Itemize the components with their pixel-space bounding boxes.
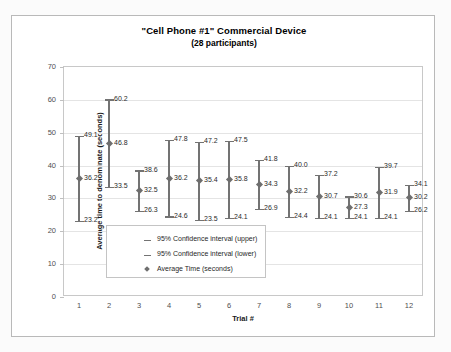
y-axis-tick <box>60 264 64 265</box>
gridline <box>64 198 422 199</box>
mean-marker[interactable] <box>105 140 112 147</box>
data-point-label-upper: 30.6 <box>354 192 368 199</box>
mean-marker[interactable] <box>225 176 232 183</box>
x-axis-tick-label: 6 <box>217 301 241 310</box>
data-point-label-lower: 24.1 <box>234 213 248 220</box>
mean-marker[interactable] <box>75 175 82 182</box>
legend-symbol <box>141 249 153 258</box>
mean-marker[interactable] <box>195 177 202 184</box>
y-axis-tick <box>60 231 64 232</box>
chart-subtitle: (28 participants) <box>12 37 436 50</box>
error-bar-cap-lower <box>105 187 114 189</box>
mean-marker[interactable] <box>345 204 352 211</box>
data-point-label-mean: 27.3 <box>354 203 368 210</box>
x-axis-tick-label: 5 <box>187 301 211 310</box>
gridline <box>64 166 422 167</box>
y-axis-tick-label: 70 <box>26 62 56 71</box>
error-bar-cap-lower <box>195 220 204 222</box>
data-point-label-upper: 39.7 <box>384 162 398 169</box>
data-point-label-lower: 24.1 <box>354 213 368 220</box>
data-point-label-mean: 32.2 <box>294 187 308 194</box>
error-bar-cap-upper <box>405 185 414 187</box>
mean-marker[interactable] <box>135 187 142 194</box>
error-bar-cap-upper <box>195 142 204 144</box>
legend-symbol <box>141 264 153 273</box>
error-bar-cap-lower <box>285 217 294 219</box>
data-point-label-lower: 24.1 <box>324 213 338 220</box>
data-point-label-lower: 26.3 <box>144 206 158 213</box>
legend-item-label: 95% Confidence interval (upper) <box>157 235 257 242</box>
data-point-label-upper: 47.8 <box>174 135 188 142</box>
x-axis-tick-label: 12 <box>397 301 421 310</box>
mean-marker[interactable] <box>255 181 262 188</box>
data-point-label-upper: 60.2 <box>114 95 128 102</box>
mean-marker[interactable] <box>285 188 292 195</box>
chart-legend: 95% Confidence interval (upper)95% Confi… <box>106 225 266 278</box>
x-axis-tick-label: 11 <box>367 301 391 310</box>
mean-marker[interactable] <box>165 175 172 182</box>
data-point-label-mean: 34.3 <box>264 180 278 187</box>
data-point-label-lower: 23.5 <box>204 215 218 222</box>
mean-marker[interactable] <box>405 194 412 201</box>
data-point-label-mean: 36.2 <box>174 174 188 181</box>
legend-item[interactable]: Average Time (seconds) <box>107 261 265 276</box>
chart-title: "Cell Phone #1" Commercial Device <box>12 24 436 37</box>
error-bar-cap-lower <box>375 218 384 220</box>
legend-dash-icon <box>144 255 151 257</box>
error-bar-cap-upper <box>225 141 234 143</box>
error-bar-cap-lower <box>345 218 354 220</box>
data-point-label-lower: 26.2 <box>414 206 428 213</box>
legend-item-label: 95% Confidence interval (lower) <box>157 250 256 257</box>
x-axis-tick-label: 3 <box>127 301 151 310</box>
data-point-label-mean: 31.9 <box>384 188 398 195</box>
chart-title-block: "Cell Phone #1" Commercial Device (28 pa… <box>12 24 436 50</box>
y-axis-tick <box>60 100 64 101</box>
x-axis-tick-label: 10 <box>337 301 361 310</box>
error-bar-cap-upper <box>375 167 384 169</box>
y-axis-tick-label: 0 <box>26 292 56 301</box>
legend-symbol <box>141 234 153 243</box>
data-point-label-upper: 47.2 <box>204 137 218 144</box>
data-point-label-mean: 35.8 <box>234 175 248 182</box>
y-axis-tick <box>60 297 64 298</box>
x-axis-title: Trial # <box>64 314 422 323</box>
error-bar-cap-lower <box>315 218 324 220</box>
legend-dash-icon <box>144 240 151 242</box>
data-point-label-lower: 24.4 <box>294 212 308 219</box>
error-bar-cap-upper <box>105 99 114 101</box>
error-bar-cap-upper <box>285 166 294 168</box>
data-point-label-upper: 34.1 <box>414 180 428 187</box>
y-axis-tick-label: 20 <box>26 226 56 235</box>
data-point-label-upper: 38.6 <box>144 166 158 173</box>
x-axis-tick-label: 8 <box>277 301 301 310</box>
error-bar-cap-upper <box>255 160 264 162</box>
screenshot-root: "Cell Phone #1" Commercial Device (28 pa… <box>0 0 451 352</box>
data-point-label-upper: 37.2 <box>324 170 338 177</box>
y-axis-tick <box>60 133 64 134</box>
mean-marker[interactable] <box>375 189 382 196</box>
data-point-label-mean: 35.4 <box>204 176 218 183</box>
data-point-label-lower: 24.1 <box>384 213 398 220</box>
data-point-label-mean: 30.7 <box>324 192 338 199</box>
error-bar-cap-upper <box>135 170 144 172</box>
gridline <box>64 133 422 134</box>
data-point-label-mean: 32.5 <box>144 186 158 193</box>
error-bar-cap-lower <box>225 218 234 220</box>
x-axis-tick-label: 2 <box>97 301 121 310</box>
error-bar-cap-upper <box>165 140 174 142</box>
y-axis-tick <box>60 198 64 199</box>
legend-diamond-icon <box>144 266 150 272</box>
x-axis-tick-label: 9 <box>307 301 331 310</box>
legend-item[interactable]: 95% Confidence interval (lower) <box>107 246 265 261</box>
data-point-label-mean: 36.2 <box>84 174 98 181</box>
data-point-label-mean: 46.8 <box>114 139 128 146</box>
error-bar-cap-lower <box>405 211 414 213</box>
error-bar-cap-lower <box>165 216 174 218</box>
x-axis-tick-label: 7 <box>247 301 271 310</box>
legend-item[interactable]: 95% Confidence interval (upper) <box>107 231 265 246</box>
error-bar-cap-lower <box>255 209 264 211</box>
data-point-label-mean: 30.2 <box>414 193 428 200</box>
error-bar-cap-lower <box>75 221 84 223</box>
x-axis-tick-label: 1 <box>67 301 91 310</box>
error-bar-cap-upper <box>315 175 324 177</box>
